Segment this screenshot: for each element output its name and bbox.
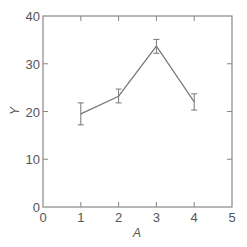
error-bar xyxy=(191,94,197,110)
plot-frame xyxy=(43,16,232,207)
data-series xyxy=(78,39,197,124)
x-axis-title: A xyxy=(132,226,141,240)
series-line xyxy=(81,46,194,114)
axis-ticks xyxy=(43,16,232,207)
x-tick-label: 5 xyxy=(228,210,235,225)
x-tick-label: 4 xyxy=(191,210,198,225)
line-chart-with-error-bars: 012345010203040 A Y xyxy=(0,0,247,247)
y-tick-label: 0 xyxy=(33,200,40,215)
x-tick-label: 2 xyxy=(115,210,122,225)
y-tick-label: 20 xyxy=(26,105,40,120)
error-bar xyxy=(78,103,84,125)
x-tick-label: 3 xyxy=(153,210,160,225)
error-bar xyxy=(153,39,159,53)
x-tick-label: 0 xyxy=(39,210,46,225)
axis-tick-labels: 012345010203040 xyxy=(26,9,236,225)
error-bar xyxy=(116,89,122,103)
plot-border xyxy=(43,16,232,207)
y-tick-label: 30 xyxy=(26,57,40,72)
y-tick-label: 10 xyxy=(26,152,40,167)
y-axis-title: Y xyxy=(8,106,22,115)
y-tick-label: 40 xyxy=(26,9,40,24)
chart-container: 012345010203040 A Y xyxy=(0,0,247,247)
x-tick-label: 1 xyxy=(77,210,84,225)
